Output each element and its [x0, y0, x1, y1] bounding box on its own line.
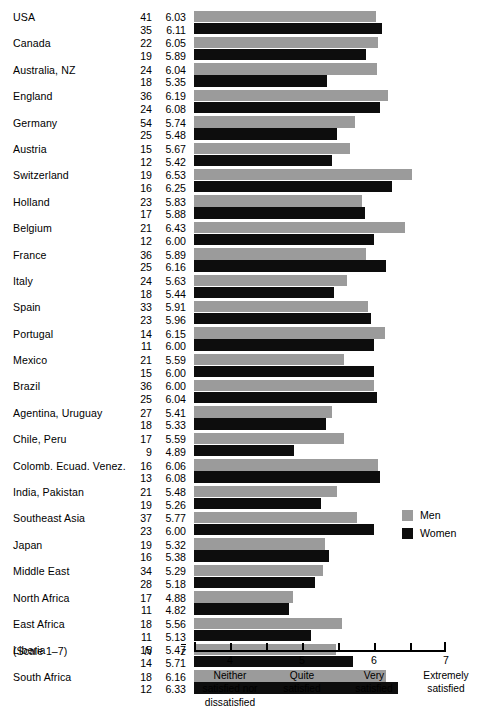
women-sample-size: 25: [122, 129, 152, 141]
women-mean-score: 6.04: [152, 393, 186, 405]
women-mean-score: 6.08: [152, 103, 186, 115]
axis-tick-major: [302, 643, 304, 650]
men-mean-score: 4.88: [152, 592, 186, 604]
bar-pair: [194, 485, 486, 511]
bar-women: [194, 366, 374, 377]
country-label: North Africa: [13, 592, 70, 604]
bar-pair: [194, 406, 486, 432]
men-sample-size: 36: [122, 90, 152, 102]
country-label: Germany: [13, 117, 57, 129]
women-mean-score: 5.33: [152, 419, 186, 431]
women-sample-size: 9: [122, 446, 152, 458]
women-sample-size: 12: [122, 156, 152, 168]
women-sample-size: 19: [122, 50, 152, 62]
men-sample-size: 24: [122, 275, 152, 287]
women-mean-score: 5.89: [152, 50, 186, 62]
country-label: France: [13, 249, 47, 261]
women-sample-size: 25: [122, 261, 152, 273]
men-mean-score: 6.15: [152, 328, 186, 340]
men-sample-size: 17: [122, 592, 152, 604]
women-sample-size: 11: [122, 604, 152, 616]
bar-pair: [194, 63, 486, 89]
men-mean-score: 5.29: [152, 565, 186, 577]
men-sample-size: 23: [122, 196, 152, 208]
country-row: France365.89256.16: [0, 248, 486, 274]
country-row: Middle East345.29285.18: [0, 564, 486, 590]
men-mean-score: 6.06: [152, 460, 186, 472]
country-row: Italy245.63185.44: [0, 274, 486, 300]
women-sample-size: 15: [122, 367, 152, 379]
women-sample-size: 11: [122, 631, 152, 643]
country-label: Australia, NZ: [13, 64, 76, 76]
men-sample-size: 34: [122, 565, 152, 577]
bar-men: [194, 90, 388, 101]
bar-women: [194, 498, 321, 509]
men-sample-size: 21: [122, 222, 152, 234]
bar-pair: [194, 617, 486, 643]
women-mean-score: 6.00: [152, 525, 186, 537]
bar-men: [194, 618, 342, 629]
country-label: Agentina, Uruguay: [13, 407, 102, 419]
bar-women: [194, 128, 337, 139]
women-sample-size: 19: [122, 499, 152, 511]
bar-pair: [194, 300, 486, 326]
bar-women: [194, 75, 327, 86]
men-mean-score: 5.59: [152, 354, 186, 366]
women-mean-score: 5.44: [152, 288, 186, 300]
country-row: USA416.03356.11: [0, 10, 486, 36]
country-label: Southeast Asia: [13, 512, 85, 524]
women-sample-size: 18: [122, 288, 152, 300]
country-row: Japan195.32165.38: [0, 538, 486, 564]
country-row: Agentina, Uruguay275.41185.33: [0, 406, 486, 432]
country-label: Portugal: [13, 328, 53, 340]
bar-men: [194, 143, 350, 154]
men-sample-size: 27: [122, 407, 152, 419]
bar-pair: [194, 10, 486, 36]
bar-pair: [194, 353, 486, 379]
legend-label: Women: [420, 526, 456, 540]
women-mean-score: 6.16: [152, 261, 186, 273]
bar-men: [194, 222, 405, 233]
country-row: Austria155.67125.42: [0, 142, 486, 168]
country-row: Belgium216.43126.00: [0, 221, 486, 247]
country-label: Mexico: [13, 354, 47, 366]
men-mean-score: 5.83: [152, 196, 186, 208]
country-row: Australia, NZ246.04185.35: [0, 63, 486, 89]
men-mean-score: 5.59: [152, 433, 186, 445]
axis-tick-minor: [338, 643, 340, 650]
bar-men: [194, 63, 377, 74]
women-mean-score: 5.35: [152, 76, 186, 88]
column-header-n: N: [122, 645, 152, 657]
bar-men: [194, 301, 368, 312]
men-sample-size: 17: [122, 433, 152, 445]
axis-tick-minor: [266, 643, 268, 650]
men-mean-score: 6.53: [152, 169, 186, 181]
axis-line: [194, 650, 446, 652]
country-row: India, Pakistan215.48195.26: [0, 485, 486, 511]
men-mean-score: 5.67: [152, 143, 186, 155]
women-mean-score: 6.25: [152, 182, 186, 194]
men-sample-size: 36: [122, 380, 152, 392]
legend-swatch: [402, 528, 413, 539]
axis-cap-left: [194, 642, 196, 650]
women-mean-score: 5.48: [152, 129, 186, 141]
country-label: South Africa: [13, 671, 71, 683]
women-mean-score: 4.89: [152, 446, 186, 458]
men-mean-score: 5.74: [152, 117, 186, 129]
men-mean-score: 5.91: [152, 301, 186, 313]
men-mean-score: 5.63: [152, 275, 186, 287]
bar-pair: [194, 221, 486, 247]
country-row: Germany545.74255.48: [0, 116, 486, 142]
women-sample-size: 24: [122, 103, 152, 115]
bar-men: [194, 459, 378, 470]
bar-men: [194, 195, 362, 206]
country-row: Switzerland196.53166.25: [0, 168, 486, 194]
legend-label: Men: [420, 508, 441, 522]
country-rows: USA416.03356.11Canada226.05195.89Austral…: [0, 10, 486, 696]
bar-men: [194, 37, 378, 48]
men-mean-score: 6.03: [152, 11, 186, 23]
women-sample-size: 18: [122, 419, 152, 431]
country-label: USA: [13, 11, 35, 23]
bar-women: [194, 181, 392, 192]
bar-pair: [194, 89, 486, 115]
